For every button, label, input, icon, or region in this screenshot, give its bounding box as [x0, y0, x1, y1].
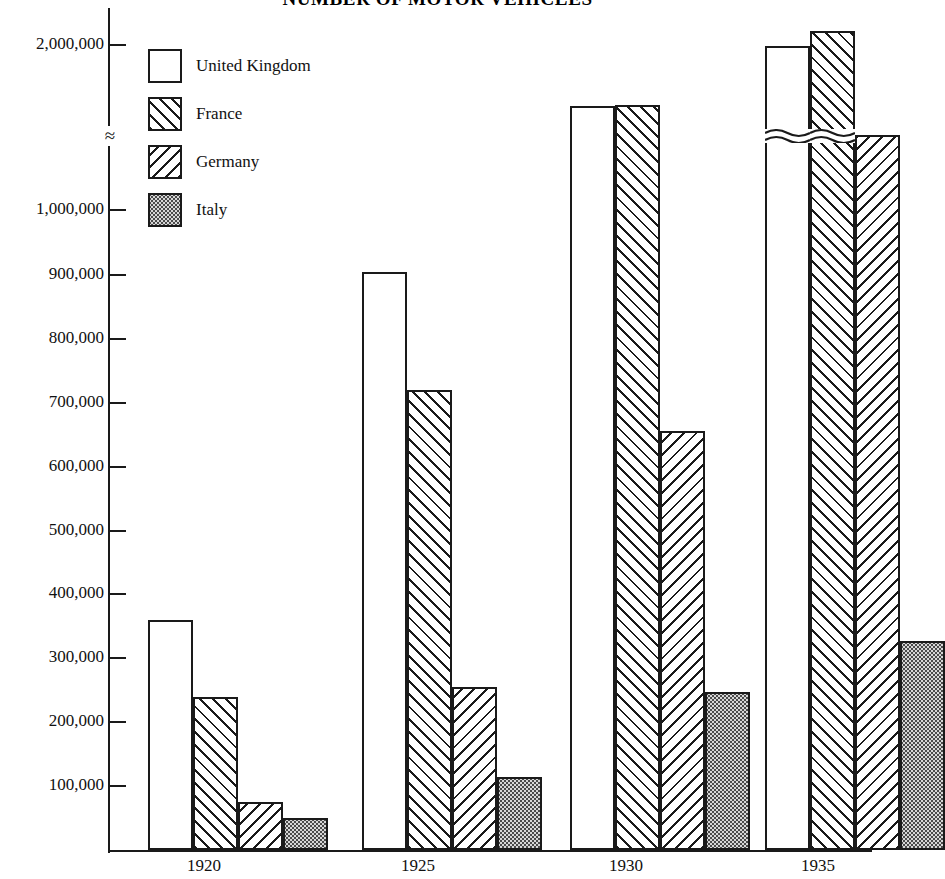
y-axis-break-icon: ≈ [99, 126, 121, 146]
y-axis-tick-label: 1,000,000 [4, 199, 104, 219]
legend-item-germany[interactable]: Germany [148, 138, 378, 186]
x-axis-label-1920: 1920 [144, 856, 264, 876]
bar-italy-1935 [900, 641, 945, 850]
y-axis-tick [110, 721, 126, 723]
legend-swatch-dotted-icon [148, 193, 182, 227]
bar-france-1930 [615, 105, 660, 850]
legend-item-france[interactable]: France [148, 90, 378, 138]
legend-item-label: Italy [196, 200, 227, 220]
chart-title: NUMBER OF MOTOR VEHICLES [0, 0, 875, 10]
x-axis-label-1925: 1925 [358, 856, 478, 876]
y-axis-tick [110, 44, 126, 46]
bar-italy-1920 [283, 818, 328, 850]
bar-united-kingdom-1935 [765, 46, 810, 850]
y-axis-tick-label: 300,000 [4, 647, 104, 667]
bar-germany-1925 [452, 687, 497, 850]
bar-france-1920 [193, 697, 238, 850]
bar-germany-1935 [855, 135, 900, 850]
y-axis-tick-label: 400,000 [4, 583, 104, 603]
legend-item-united-kingdom[interactable]: United Kingdom [148, 42, 378, 90]
y-axis-tick-label: 900,000 [4, 264, 104, 284]
bar-france-1935 [810, 31, 855, 850]
legend-item-label: Germany [196, 152, 259, 172]
bar-italy-1930 [705, 692, 750, 850]
bar-axis-break [765, 129, 810, 143]
legend-item-label: United Kingdom [196, 56, 311, 76]
y-axis-tick-label: 200,000 [4, 711, 104, 731]
y-axis-tick [110, 466, 126, 468]
y-axis-tick-label: 800,000 [4, 328, 104, 348]
bar-united-kingdom-1920 [148, 620, 193, 850]
legend-item-italy[interactable]: Italy [148, 186, 378, 234]
y-axis-tick [110, 209, 126, 211]
y-axis-tick [110, 402, 126, 404]
x-axis-line [108, 850, 872, 852]
chart-legend: United KingdomFranceGermanyItaly [148, 42, 378, 234]
y-axis-tick-label: 2,000,000 [4, 34, 104, 54]
y-axis-tick-label: 100,000 [4, 775, 104, 795]
x-axis-label-1930: 1930 [566, 856, 686, 876]
bar-germany-1920 [238, 802, 283, 850]
y-axis-tick [110, 274, 126, 276]
y-axis-tick [110, 657, 126, 659]
legend-swatch-diagonal-right-icon [148, 97, 182, 131]
y-axis-tick [110, 593, 126, 595]
legend-swatch-diagonal-left-icon [148, 145, 182, 179]
y-axis-tick-label: 600,000 [4, 456, 104, 476]
bar-united-kingdom-1930 [570, 106, 615, 850]
y-axis-tick-label: 500,000 [4, 520, 104, 540]
bar-germany-1930 [660, 431, 705, 850]
bar-united-kingdom-1925 [362, 272, 407, 850]
y-axis-tick-label: 700,000 [4, 392, 104, 412]
y-axis-tick [110, 338, 126, 340]
x-axis-label-1935: 1935 [758, 856, 878, 876]
bar-axis-break [810, 129, 855, 143]
bar-france-1925 [407, 390, 452, 850]
legend-swatch-solid-white-icon [148, 49, 182, 83]
bar-italy-1925 [497, 777, 542, 850]
y-axis-tick [110, 530, 126, 532]
legend-item-label: France [196, 104, 242, 124]
y-axis-tick [110, 785, 126, 787]
